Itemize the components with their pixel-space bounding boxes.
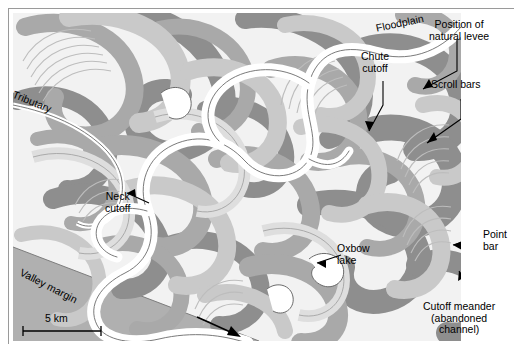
label-neck-cutoff-line2: cutoff bbox=[105, 203, 131, 215]
scale-bar-label: 5 km bbox=[45, 313, 68, 325]
label-cutoff-meander-line3: channel) bbox=[423, 324, 495, 336]
map-svg bbox=[9, 9, 515, 345]
label-oxbow-lake-line1: Oxbow bbox=[337, 243, 370, 255]
label-chute-cutoff-line1: Chute bbox=[361, 51, 389, 63]
label-cutoff-meander-line1: Cutoff meander bbox=[423, 301, 495, 313]
label-chute-cutoff: Chute cutoff bbox=[361, 51, 389, 74]
label-scroll-bars: Scroll bars bbox=[431, 79, 481, 91]
label-neck-cutoff: Neck cutoff bbox=[105, 191, 131, 214]
label-natural-levee: Position of natural levee bbox=[429, 19, 489, 42]
label-point-bar: Point bar bbox=[483, 229, 507, 252]
map-figure-frame: Floodplain Position of natural levee Scr… bbox=[8, 8, 514, 344]
label-oxbow-lake: Oxbow lake bbox=[337, 243, 370, 266]
label-neck-cutoff-line1: Neck bbox=[105, 191, 131, 203]
label-oxbow-lake-line2: lake bbox=[337, 255, 370, 267]
label-point-bar-line2: bar bbox=[483, 241, 507, 253]
label-scroll-bars-text: Scroll bars bbox=[431, 79, 481, 91]
figure-page: Floodplain Position of natural levee Scr… bbox=[0, 0, 522, 352]
label-natural-levee-line2: natural levee bbox=[429, 31, 489, 43]
scale-bar-value: 5 km bbox=[45, 312, 68, 324]
label-chute-cutoff-line2: cutoff bbox=[361, 63, 389, 75]
label-natural-levee-line1: Position of bbox=[429, 19, 489, 31]
meander-belt-map bbox=[9, 9, 513, 343]
label-cutoff-meander: Cutoff meander (abandoned channel) bbox=[423, 301, 495, 336]
label-point-bar-line1: Point bbox=[483, 229, 507, 241]
